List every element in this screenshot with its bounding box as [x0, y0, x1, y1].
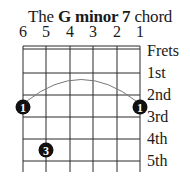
finger-dot-string6-fret3: 1 — [16, 100, 31, 115]
fret-label-5th: 5th — [147, 152, 167, 170]
svg-text:1: 1 — [20, 101, 26, 115]
finger-dot-string1-fret3: 1 — [133, 100, 148, 115]
svg-text:1: 1 — [137, 101, 143, 115]
frets-header: Frets — [147, 42, 179, 60]
fret-label-2nd: 2nd — [147, 86, 171, 104]
barre-arc — [27, 80, 136, 102]
finger-dot-string5-fret5: 3 — [39, 143, 54, 158]
fret-label-4th: 4th — [147, 130, 167, 148]
fret-label-1st: 1st — [147, 64, 166, 82]
fret-label-3rd: 3rd — [147, 108, 168, 126]
svg-text:3: 3 — [43, 144, 49, 158]
